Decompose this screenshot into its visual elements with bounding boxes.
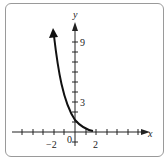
y-axis-arrow-icon xyxy=(72,22,78,31)
x-tick-label-2: 2 xyxy=(93,139,98,150)
x-tick-label-neg2: −2 xyxy=(46,139,57,150)
y-tick-label-3: 3 xyxy=(80,97,85,108)
x-tick-label-0: 0 xyxy=(67,134,72,145)
data-curve xyxy=(54,36,93,131)
y-tick-label-9: 9 xyxy=(80,37,85,48)
x-axis-label: x xyxy=(147,128,153,139)
y-axis-label: y xyxy=(72,9,78,20)
curve-arrow-icon xyxy=(49,28,58,38)
chart-plot: x y −2 0 2 3 9 xyxy=(0,0,167,164)
